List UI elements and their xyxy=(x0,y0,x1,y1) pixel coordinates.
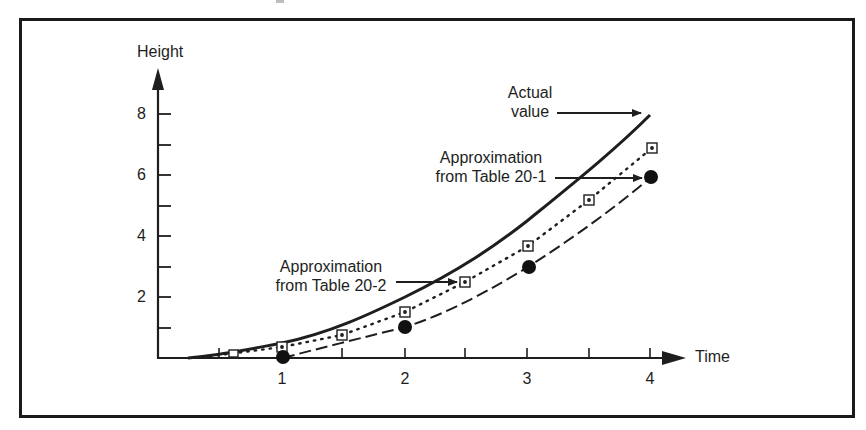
x-axis-arrowhead-icon xyxy=(662,351,686,365)
x-tick-label-3: 3 xyxy=(517,370,537,388)
annotation-actual-line1: Actual xyxy=(502,83,558,102)
square-dot-marker-icon xyxy=(229,350,238,357)
annotation-table-20-1-line2: from Table 20-1 xyxy=(422,167,560,186)
annotation-table-20-2-line2: from Table 20-2 xyxy=(262,276,400,295)
annotation-arrows xyxy=(396,113,642,282)
y-axis-label: Height xyxy=(137,42,183,61)
x-tick-label-2: 2 xyxy=(395,370,415,388)
annotation-table-20-1-line1: Approximation xyxy=(422,148,560,167)
annotation-table-20-1: Approximation from Table 20-1 xyxy=(422,148,560,186)
filled-circle-marker-icon xyxy=(644,170,658,184)
x-tick-label-1: 1 xyxy=(272,370,292,388)
filled-circle-marker-icon xyxy=(276,350,290,364)
filled-circle-marker-icon xyxy=(522,260,536,274)
square-dot-marker-icon xyxy=(400,307,410,317)
y-tick-label-2: 2 xyxy=(126,288,146,306)
y-axis-arrowhead-icon xyxy=(152,68,164,90)
annotation-table-20-2: Approximation from Table 20-2 xyxy=(262,257,400,295)
annotation-actual-line2: value xyxy=(502,102,558,121)
annotation-table-20-2-line1: Approximation xyxy=(262,257,400,276)
square-dot-marker-icon xyxy=(523,241,533,251)
y-tick-label-8: 8 xyxy=(126,105,146,123)
y-tick-label-4: 4 xyxy=(126,227,146,245)
y-axis-ticks xyxy=(158,114,171,328)
y-tick-label-6: 6 xyxy=(126,166,146,184)
filled-circle-marker-icon xyxy=(398,320,412,334)
square-dot-marker-icon xyxy=(647,143,657,153)
square-dot-marker-icon xyxy=(584,195,594,205)
annotation-actual-value: Actual value xyxy=(502,83,558,121)
y-axis xyxy=(152,68,171,359)
plot-area xyxy=(0,0,866,430)
x-tick-label-4: 4 xyxy=(640,370,660,388)
square-dot-marker-icon xyxy=(337,330,347,340)
x-axis-label: Time xyxy=(695,347,730,366)
square-dot-marker-icon xyxy=(460,277,470,287)
